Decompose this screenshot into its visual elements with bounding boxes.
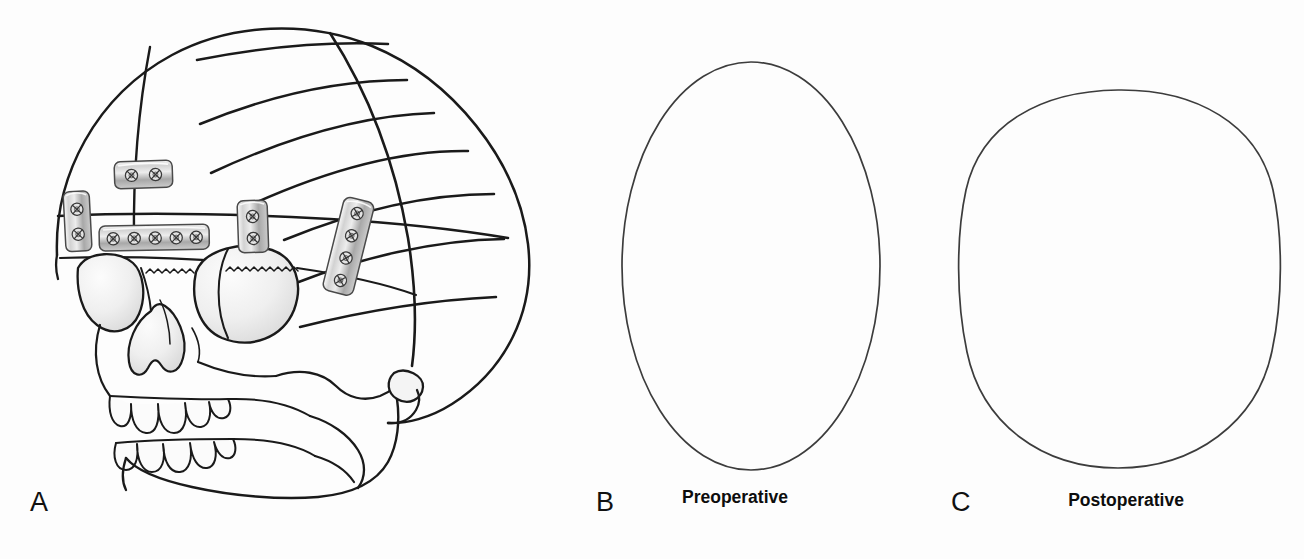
preoperative-caption: Preoperative <box>682 489 788 507</box>
osteotomy-line-1 <box>197 43 388 60</box>
osteotomy-suture-left <box>134 47 150 241</box>
preoperative-outline-shape <box>622 62 880 470</box>
lower-teeth-row <box>114 439 235 472</box>
orbit-near <box>194 246 298 343</box>
mandible-inferior-border <box>123 458 126 490</box>
postoperative-outline-shape <box>959 90 1281 468</box>
fixation-plate-superior <box>114 160 173 189</box>
osteotomy-line-3 <box>211 113 434 173</box>
osteotomy-line-2 <box>200 80 407 124</box>
frontal-border <box>56 255 58 279</box>
zygoma-body <box>198 362 276 376</box>
mandible-ramus-anterior <box>310 416 364 488</box>
fixation-plate-mid-temporal <box>237 200 269 253</box>
fixation-plate-left-lateral <box>63 191 92 252</box>
mandibular-condyle <box>389 371 423 402</box>
panel-letter-b: B <box>596 489 614 516</box>
panel-letter-c: C <box>951 489 971 516</box>
postoperative-caption: Postoperative <box>1068 492 1184 510</box>
maxilla-lateral-curve <box>192 328 199 362</box>
panel-a-skull-illustration <box>0 0 1304 559</box>
maxilla-outline <box>96 325 110 396</box>
fixation-plate-supraorbital-bar <box>99 224 209 251</box>
upper-teeth-row <box>109 396 230 433</box>
orbit-far <box>78 254 144 331</box>
mandible-notch <box>315 456 354 482</box>
zigzag-osteotomy-left <box>146 269 194 273</box>
figure-container: A B Preoperative C Postoperative <box>0 0 1304 559</box>
osteotomy-line-7 <box>300 297 496 327</box>
panel-letter-a: A <box>30 489 48 516</box>
